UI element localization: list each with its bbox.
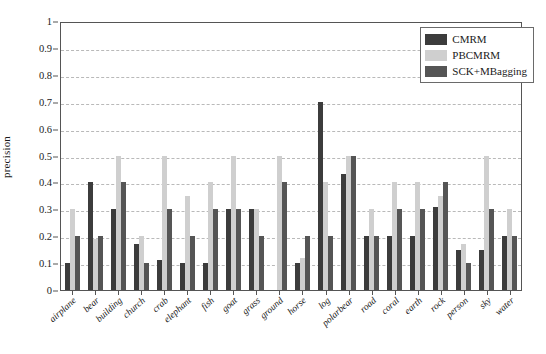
y-tick-label: 0.2 [39, 232, 52, 243]
x-label-cell: rock [430, 294, 453, 354]
x-label-cell: church [129, 294, 152, 354]
y-tick-label: 0.9 [39, 44, 52, 55]
bar-group [107, 23, 130, 290]
bar-group [291, 23, 314, 290]
bar [443, 182, 448, 290]
y-tick-label: 0.7 [39, 97, 52, 108]
bar [167, 209, 172, 290]
y-tick-mark [53, 237, 58, 238]
legend-swatch [425, 34, 447, 45]
bar [512, 236, 517, 290]
y-tick-label: 0.5 [39, 151, 52, 162]
bar-group [199, 23, 222, 290]
y-tick-mark [53, 156, 58, 157]
x-label-cell: goat [222, 294, 245, 354]
bar-group [383, 23, 406, 290]
legend-item: SCK+MBagging [425, 63, 527, 79]
y-tick-mark [53, 129, 58, 130]
x-label-cell: earth [406, 294, 429, 354]
x-tick-label: earth [403, 296, 424, 316]
x-label-cell: horse [291, 294, 314, 354]
y-tick-mark [53, 75, 58, 76]
x-label-cell: person [453, 294, 476, 354]
bar-group [268, 23, 291, 290]
y-tick-mark [53, 48, 58, 49]
x-label-cell: bear [83, 294, 106, 354]
x-label-cell: airplane [60, 294, 83, 354]
x-label-cell: grass [245, 294, 268, 354]
x-label-cell: polarbear [337, 294, 360, 354]
bar [489, 209, 494, 290]
y-tick-mark [53, 291, 58, 292]
x-label-cell: water [499, 294, 522, 354]
legend-label: SCK+MBagging [452, 66, 527, 77]
bar [328, 236, 333, 290]
y-tick-mark [53, 22, 58, 23]
bar-group [176, 23, 199, 290]
bar [466, 263, 471, 290]
legend-item: PBCMRM [425, 47, 527, 63]
y-tick-label: 0.4 [39, 178, 52, 189]
x-tick-label: coral [380, 296, 401, 316]
legend-swatch [425, 66, 447, 77]
bar [282, 182, 287, 290]
y-tick-label: 0.3 [39, 205, 52, 216]
y-tick-mark [53, 102, 58, 103]
bar-group [222, 23, 245, 290]
bar [75, 236, 80, 290]
y-tick-mark [53, 264, 58, 265]
bar-group [153, 23, 176, 290]
legend-label: PBCMRM [452, 50, 500, 61]
bar-group [360, 23, 383, 290]
legend-swatch [425, 50, 447, 61]
bar-group [61, 23, 84, 290]
x-axis-labels: airplanebearbuildingchurchcrabelephantfi… [60, 294, 522, 354]
bar [305, 236, 310, 290]
y-tick-mark [53, 183, 58, 184]
y-tick-label: 0 [47, 286, 52, 297]
x-tick-label: fish [200, 296, 217, 312]
bar [98, 236, 103, 290]
bar [121, 182, 126, 290]
x-tick-label: log [317, 296, 332, 311]
bar [213, 209, 218, 290]
legend-item: CMRM [425, 31, 527, 47]
bar-group [130, 23, 153, 290]
x-label-cell: ground [268, 294, 291, 354]
x-label-cell: crab [152, 294, 175, 354]
bar [420, 209, 425, 290]
bar-group [84, 23, 107, 290]
x-tick-label: sky [478, 296, 493, 311]
y-tick-label: 0.6 [39, 124, 52, 135]
x-label-cell: elephant [175, 294, 198, 354]
legend-label: CMRM [452, 34, 486, 45]
y-tick-label: 0.1 [39, 259, 52, 270]
x-label-cell: sky [476, 294, 499, 354]
x-tick-label: road [359, 296, 378, 315]
y-axis: 00.10.20.30.40.50.60.70.80.91 [0, 22, 58, 291]
chart-figure: precision 00.10.20.30.40.50.60.70.80.91 … [0, 0, 546, 354]
bar-group [245, 23, 268, 290]
bar [374, 236, 379, 290]
bar [190, 236, 195, 290]
y-tick-mark [53, 210, 58, 211]
bar [351, 156, 356, 291]
y-tick-label: 1 [47, 17, 52, 28]
x-label-cell: coral [383, 294, 406, 354]
x-label-cell: building [106, 294, 129, 354]
bar [236, 209, 241, 290]
y-tick-label: 0.8 [39, 71, 52, 82]
bar [144, 263, 149, 290]
bar [397, 209, 402, 290]
x-label-cell: road [360, 294, 383, 354]
bar-group [337, 23, 360, 290]
x-tick-label: horse [287, 296, 309, 317]
bar [259, 236, 264, 290]
x-tick-label: airplane [48, 296, 78, 325]
x-label-cell: fish [199, 294, 222, 354]
legend: CMRMPBCMRMSCK+MBagging [420, 27, 534, 83]
x-tick-label: goat [221, 296, 240, 314]
bar-group [314, 23, 337, 290]
